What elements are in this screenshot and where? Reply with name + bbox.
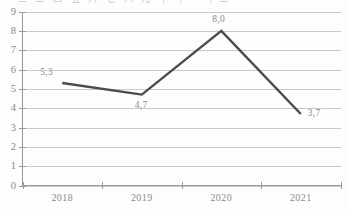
x-axis-tick-label: 2020 — [191, 192, 251, 203]
line-chart: 一 二 三 四 五 六 七 八 九 十 十一 十二 0123456789 201… — [0, 0, 349, 210]
gridlines — [23, 13, 341, 187]
y-axis-tick-label: 7 — [2, 44, 16, 55]
data-point-label: 4,7 — [135, 100, 148, 110]
y-axis-tick-label: 8 — [2, 25, 16, 36]
y-axis-tick-label: 1 — [2, 160, 16, 171]
data-point-label: 5,3 — [40, 67, 53, 77]
y-axis-tick-label: 0 — [2, 180, 16, 191]
data-point-label: 8,0 — [212, 14, 225, 24]
data-point-label: 3,7 — [308, 108, 321, 118]
x-axis-tick-label: 2021 — [271, 192, 331, 203]
y-axis-tick-label: 2 — [2, 141, 16, 152]
y-axis-tick-label: 9 — [2, 6, 16, 17]
x-axis-tick-label: 2019 — [112, 192, 172, 203]
x-axis-tick-label: 2018 — [32, 192, 92, 203]
y-axis-tick-label: 4 — [2, 102, 16, 113]
y-axis-tick-label: 3 — [2, 122, 16, 133]
plot-area — [0, 0, 349, 210]
data-series-line — [62, 31, 300, 114]
y-axis-tick-label: 5 — [2, 83, 16, 94]
y-axis-tick-label: 6 — [2, 64, 16, 75]
